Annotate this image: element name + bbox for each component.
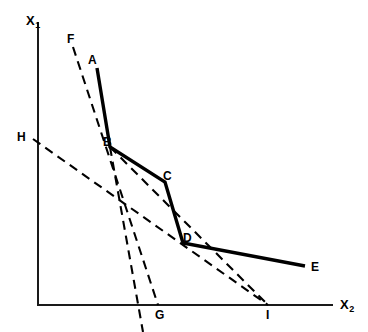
diagram-svg	[0, 0, 368, 332]
point-label-g: G	[155, 309, 164, 321]
point-label-f: F	[67, 33, 74, 45]
point-label-d: D	[183, 232, 192, 244]
x-axis-label: X2	[340, 298, 354, 311]
point-label-e: E	[311, 261, 319, 273]
y-axis-label: X1	[26, 14, 40, 27]
point-label-h: H	[17, 131, 26, 143]
point-label-c: C	[163, 170, 172, 182]
solid-polyline-abcde	[97, 68, 305, 266]
x-axis-label-text: X	[340, 297, 349, 312]
point-label-b: B	[103, 136, 112, 148]
diagram-canvas: X1 X2 A B C D E F G H I	[0, 0, 368, 332]
point-label-i: I	[266, 309, 269, 321]
y-axis-label-subscript: 1	[35, 20, 40, 30]
x-axis-label-subscript: 2	[349, 304, 354, 314]
point-label-a: A	[88, 54, 97, 66]
y-axis-label-text: X	[26, 13, 35, 28]
